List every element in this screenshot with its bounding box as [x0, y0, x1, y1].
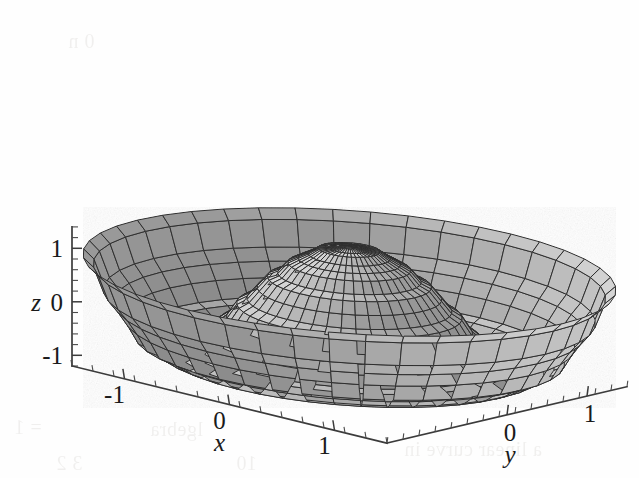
surface-patch — [402, 336, 441, 343]
surface-patch — [210, 262, 243, 280]
surface-patch — [404, 227, 441, 259]
surface-patch — [229, 219, 266, 248]
surface-plot-figure: a linear curve inlgebra10= 13 20 n 10-1z… — [0, 0, 639, 478]
surface-patch — [342, 300, 355, 315]
surface-patch — [334, 279, 345, 293]
surface-patch — [344, 280, 354, 294]
surface-patch — [400, 343, 437, 366]
surface-patch — [366, 335, 404, 343]
surface-patch — [198, 221, 234, 251]
surface-patch — [336, 272, 346, 280]
surface-patch — [437, 335, 475, 343]
surface-patch — [262, 219, 299, 247]
z-tick-label-z_top: 1 — [51, 235, 64, 262]
surface-patch — [345, 265, 352, 273]
y-axis-label: y — [501, 441, 516, 468]
surface-patch — [204, 248, 239, 264]
x-axis-label: x — [213, 429, 225, 456]
surface-patch — [396, 375, 430, 387]
surface-patch — [345, 273, 354, 281]
surface-patch — [224, 208, 262, 221]
axis-tick — [228, 395, 230, 405]
y-tick-label-y_one: 1 — [584, 400, 597, 427]
surface-patch — [365, 341, 402, 365]
surface-patch — [343, 293, 355, 301]
x-tick-label-x_one: 1 — [318, 432, 331, 459]
z-tick-label-z_mid: 0 — [51, 289, 64, 316]
axis-tick — [333, 420, 335, 430]
axis-tick — [627, 381, 628, 387]
surface-patch — [434, 342, 471, 366]
surface-patch — [333, 209, 371, 223]
surface-patch — [258, 208, 297, 220]
axis-tick — [123, 369, 125, 379]
surface-patch — [192, 209, 229, 223]
z-tick-label-z_bottom: -1 — [42, 342, 63, 369]
surface-patch — [295, 208, 333, 221]
axis-tick — [587, 386, 588, 396]
surface-patch — [341, 314, 356, 329]
surface-patch — [329, 299, 343, 314]
x-tick-label-x_neg1: -1 — [104, 381, 125, 408]
surface-patch — [327, 313, 342, 328]
surface-mesh — [83, 208, 615, 408]
surface-patch — [364, 373, 398, 386]
surface-plot-canvas: 10-1z-101x01y — [0, 0, 639, 478]
axis-tick — [507, 405, 508, 415]
surface-patch — [233, 247, 269, 262]
z-axis-label: z — [30, 289, 41, 316]
surface-patch — [398, 366, 434, 375]
